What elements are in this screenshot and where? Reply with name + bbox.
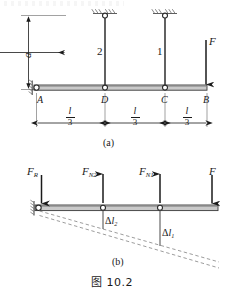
span-dimension-3: l 3 — [178, 106, 196, 127]
diagram-b-group — [30, 174, 219, 268]
beam-a — [34, 85, 207, 90]
subfigure-caption-a: (a) — [103, 137, 114, 148]
joint-D-b — [101, 205, 106, 210]
joint-C — [163, 85, 168, 90]
force-label-FN1-base: F — [139, 165, 146, 177]
figure-vector-canvas — [0, 0, 236, 293]
force-label-F-b: F — [209, 166, 216, 177]
beam-b — [35, 205, 218, 211]
span-dimension-1: l 3 — [61, 106, 79, 127]
load-label-F-a: F — [209, 36, 216, 47]
span-dimension-2: l 3 — [126, 106, 144, 127]
span-dimension-1-denominator: 3 — [61, 118, 79, 127]
pin-support-A-b — [30, 200, 41, 215]
dimension-a-group — [0, 16, 66, 90]
ceiling-support-hanger-2 — [92, 9, 117, 18]
hanger-label-2: 2 — [97, 46, 103, 57]
force-label-FN2-subscript: N2 — [89, 171, 97, 178]
joint-C-b — [158, 205, 163, 210]
force-label-F-b-base: F — [209, 165, 216, 177]
force-label-FN1: FN1 — [139, 166, 154, 177]
dimension-label-a: a — [22, 53, 33, 59]
joint-D — [103, 85, 108, 90]
span-dimension-3-numerator: l — [178, 106, 196, 116]
pin-support-A — [29, 80, 40, 95]
hanger-label-1: 1 — [157, 46, 163, 57]
elongation-label-delta-l1: Δl1 — [162, 228, 174, 238]
force-label-FR-subscript: R — [34, 171, 38, 178]
span-dimension-3-denominator: 3 — [178, 118, 196, 127]
force-label-FR: FR — [27, 166, 38, 177]
span-dimension-2-denominator: 3 — [126, 118, 144, 127]
node-label-B: B — [203, 95, 209, 105]
subfigure-caption-b: (b) — [112, 256, 124, 267]
elongation-label-delta-l2: Δl2 — [105, 216, 117, 226]
diagram-a-group — [0, 9, 207, 127]
ceiling-support-hanger-1 — [152, 9, 177, 18]
node-label-A: A — [37, 95, 43, 105]
node-label-D: D — [101, 95, 108, 105]
figure-10-2: a 2 1 F A D C B l 3 l 3 l 3 (a) FR FN2 F… — [0, 0, 236, 293]
span-dimension-2-numerator: l — [126, 106, 144, 116]
deflected-shape-dashed — [40, 211, 220, 268]
elongation-label-delta-l1-subscript: 1 — [171, 232, 174, 239]
figure-number-caption: 图 10.2 — [91, 273, 133, 289]
force-label-FN2: FN2 — [82, 166, 97, 177]
force-label-FN2-base: F — [82, 165, 89, 177]
force-label-FN1-subscript: N1 — [146, 171, 154, 178]
elongation-label-delta-l2-subscript: 2 — [114, 220, 117, 227]
span-dimension-1-numerator: l — [61, 106, 79, 116]
force-label-FR-base: F — [27, 165, 34, 177]
node-label-C: C — [161, 95, 168, 105]
